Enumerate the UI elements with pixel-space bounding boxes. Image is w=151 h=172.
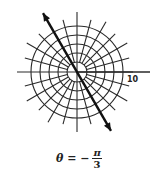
caption-numerator: π (92, 147, 101, 159)
grid-radial (84, 34, 115, 65)
caption-denominator: 3 (94, 159, 101, 170)
grid-radial (39, 79, 70, 110)
caption-fraction: π 3 (92, 147, 101, 170)
caption-lhs: θ = − (56, 152, 89, 165)
axis-tick-label: 10 (127, 75, 138, 84)
caption: θ = − π 3 (56, 147, 102, 170)
